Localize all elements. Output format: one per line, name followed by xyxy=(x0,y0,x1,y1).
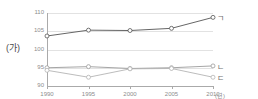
y-tick-label: 95 xyxy=(37,64,44,70)
x-tick-label: 1995 xyxy=(82,91,95,97)
series-lines xyxy=(47,13,213,86)
data-point-marker xyxy=(170,26,174,30)
y-tick-label: 110 xyxy=(34,9,44,15)
data-point-marker xyxy=(128,29,132,33)
y-tick-label: 105 xyxy=(34,27,44,33)
data-point-marker xyxy=(45,68,49,72)
data-point-marker xyxy=(87,28,91,32)
y-tick-label: 90 xyxy=(37,82,44,88)
data-point-marker xyxy=(211,64,215,68)
series-label-2: ㄷ xyxy=(217,72,224,83)
data-point-marker xyxy=(128,67,132,71)
chart-title xyxy=(0,0,258,3)
x-tick-label: 2005 xyxy=(165,91,178,97)
x-tick xyxy=(89,86,90,89)
x-tick-label: 1990 xyxy=(40,91,53,97)
x-axis-unit: (년) xyxy=(215,91,225,99)
x-tick xyxy=(213,86,214,89)
series-label-1: ㄴ xyxy=(217,61,224,72)
x-tick-label: 2000 xyxy=(123,91,136,97)
chart-figure: (가) 9095100105110 19901995200020052010 ㄱ… xyxy=(0,0,258,99)
data-point-marker xyxy=(170,66,174,70)
data-point-marker xyxy=(211,75,215,79)
y-tick-label: 100 xyxy=(34,46,44,52)
plot-area: 9095100105110 19901995200020052010 ㄱㄴㄷ (… xyxy=(47,13,213,86)
series-label-0: ㄱ xyxy=(217,12,224,23)
data-point-marker xyxy=(87,65,91,69)
x-tick xyxy=(47,86,48,89)
data-point-marker xyxy=(45,34,49,38)
x-tick xyxy=(172,86,173,89)
series-line xyxy=(47,17,213,36)
x-tick xyxy=(130,86,131,89)
data-point-marker xyxy=(87,75,91,79)
data-point-marker xyxy=(211,15,215,19)
panel-label: (가) xyxy=(6,41,20,54)
